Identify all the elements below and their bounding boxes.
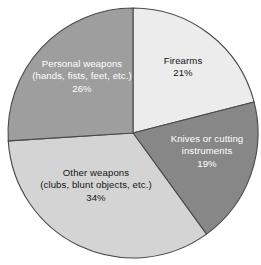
pie-chart-canvas	[0, 0, 261, 265]
pie-chart: Firearms 21% Knives or cutting instrumen…	[0, 0, 261, 265]
pie-slice-personal-weapons	[8, 8, 133, 141]
pie-slice-group	[8, 8, 258, 258]
